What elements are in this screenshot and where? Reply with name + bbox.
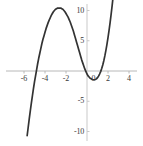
x-tick-label: -2 xyxy=(63,75,69,83)
x-tick-label: 0 xyxy=(92,75,96,83)
x-tick-label: -4 xyxy=(42,75,48,83)
plot-canvas xyxy=(0,0,143,146)
x-tick-label: 2 xyxy=(106,75,110,83)
data-series-group xyxy=(27,0,113,136)
y-tick-label: 10 xyxy=(70,7,84,15)
y-tick-label: -5 xyxy=(70,97,84,105)
x-tick-label: 4 xyxy=(127,75,131,83)
curve-line xyxy=(27,0,113,136)
y-tick-label: 5 xyxy=(70,37,84,45)
plot-figure: -6-4-2024 105-5-10 xyxy=(0,0,143,146)
y-tick-label: -10 xyxy=(70,128,84,136)
x-tick-label: -6 xyxy=(21,75,27,83)
